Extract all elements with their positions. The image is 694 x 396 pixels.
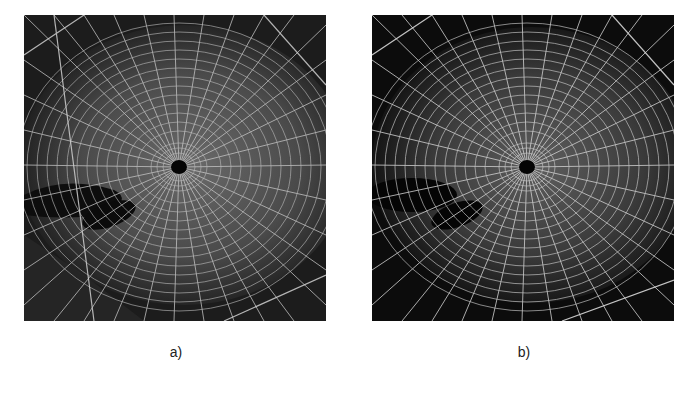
spider-web-graphic-b	[372, 15, 674, 321]
spider-web-graphic-a	[24, 15, 326, 321]
spider-web-image-a	[24, 15, 326, 321]
caption-a: a)	[156, 344, 196, 360]
caption-b: b)	[504, 344, 544, 360]
spider-web-image-b	[372, 15, 674, 321]
